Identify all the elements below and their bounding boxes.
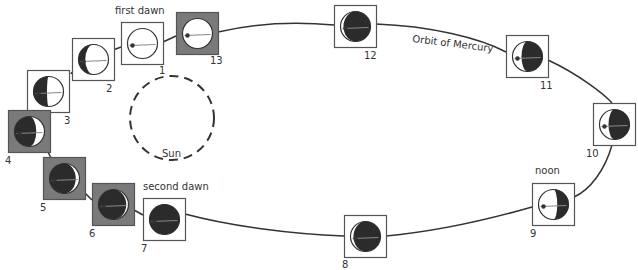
orbit-position-1: 1 (122, 23, 166, 77)
second-dawn-label: second dawn (143, 181, 209, 192)
orbit-position-9: 9 (530, 184, 575, 240)
observer-marker (17, 131, 21, 135)
observer-marker (52, 178, 56, 182)
orbit-position-8: 8 (342, 216, 387, 270)
position-number: 2 (106, 83, 112, 94)
position-number: 11 (540, 80, 553, 91)
position-number: 8 (342, 259, 348, 270)
position-number: 13 (210, 55, 223, 66)
orbit-position-2: 2 (73, 39, 115, 95)
observer-marker (130, 43, 134, 47)
position-number: 10 (586, 148, 599, 159)
orbit-label: Orbit of Mercury (412, 33, 494, 54)
orbit-position-11: 11 (507, 36, 553, 92)
position-number: 1 (159, 65, 165, 76)
observer-marker (343, 26, 347, 30)
position-number: 5 (40, 202, 46, 213)
orbit-position-7: 7 (141, 199, 186, 255)
orbit-position-5: 5 (40, 158, 86, 214)
observer-marker (101, 204, 105, 208)
position-number: 9 (530, 228, 536, 239)
observer-marker (81, 59, 85, 63)
position-number: 6 (89, 228, 95, 239)
observer-marker (541, 204, 545, 208)
position-number: 7 (141, 243, 147, 254)
observer-marker (152, 219, 156, 223)
observer-marker (185, 33, 189, 37)
observer-marker (515, 56, 519, 60)
mercury-orbit-diagram: Sun first dawn second dawn noon Orbit of… (0, 0, 638, 270)
observer-marker (36, 91, 40, 95)
orbit-position-6: 6 (89, 184, 135, 240)
observer-marker (353, 236, 357, 240)
position-number: 3 (64, 115, 70, 126)
observer-marker (602, 124, 606, 128)
first-dawn-label: first dawn (115, 5, 165, 16)
orbit-position-13: 13 (177, 13, 223, 67)
orbit-position-12: 12 (335, 6, 377, 62)
position-number: 4 (5, 155, 11, 166)
noon-label: noon (535, 165, 560, 176)
position-number: 12 (364, 50, 377, 61)
sun-label: Sun (162, 148, 181, 159)
